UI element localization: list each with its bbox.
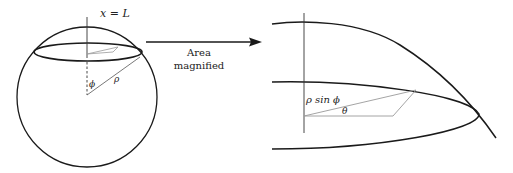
rho-label: ρ xyxy=(113,74,120,84)
rho-sin-phi-label: ρ sin ϕ xyxy=(305,94,340,105)
area-element xyxy=(87,47,118,54)
magnified-figure: ρ sin ϕ θ xyxy=(272,13,496,149)
sphere-arc xyxy=(272,22,496,138)
cap-ellipse xyxy=(34,43,142,61)
magnify-arrow: Area magnified xyxy=(146,38,262,72)
arrow-label-line2: magnified xyxy=(174,60,225,71)
phi-label: ϕ xyxy=(89,79,95,89)
sphere-figure: x = L ϕ ρ xyxy=(17,7,157,167)
theta-label: θ xyxy=(342,106,348,116)
sphere-cap-diagram: x = L ϕ ρ Area magnified ρ sin ϕ θ xyxy=(0,0,513,173)
arrow-label-line1: Area xyxy=(186,47,211,58)
cap-ellipse-magnified xyxy=(272,82,479,149)
plane-label: x = L xyxy=(100,7,130,20)
